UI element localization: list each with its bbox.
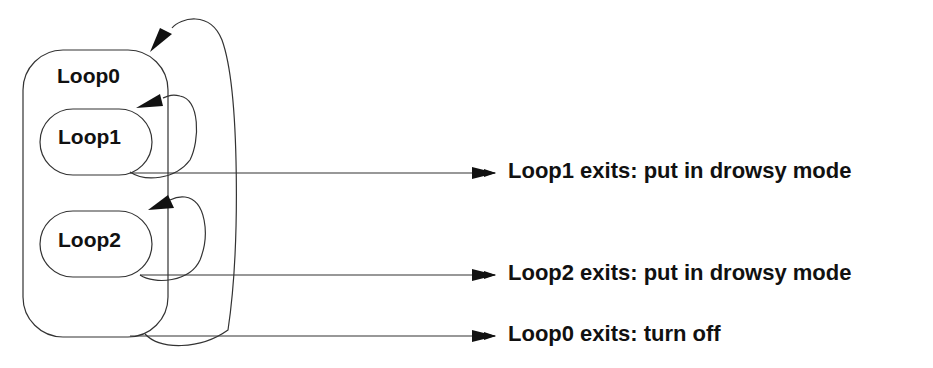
loop2-back-arrowhead-icon bbox=[148, 195, 174, 210]
loop0-exit-label: Loop0 exits: turn off bbox=[508, 321, 721, 347]
loop-diagram bbox=[0, 0, 933, 368]
loop1-exit-label: Loop1 exits: put in drowsy mode bbox=[508, 158, 851, 184]
loop2-exit-arrowhead-icon bbox=[472, 269, 496, 281]
loop0-label: Loop0 bbox=[57, 64, 120, 88]
loop0-back-edge bbox=[145, 19, 236, 346]
loop0-exit-arrowhead-icon bbox=[472, 330, 496, 342]
loop2-exit-label: Loop2 exits: put in drowsy mode bbox=[508, 260, 851, 286]
loop0-box bbox=[23, 50, 168, 337]
loop1-back-arrowhead-icon bbox=[136, 94, 163, 108]
loop2-label: Loop2 bbox=[58, 228, 121, 252]
loop1-exit-arrowhead-icon bbox=[472, 167, 496, 179]
loop1-label: Loop1 bbox=[58, 125, 121, 149]
loop0-back-arrowhead-icon bbox=[150, 28, 172, 52]
